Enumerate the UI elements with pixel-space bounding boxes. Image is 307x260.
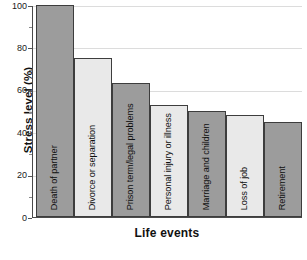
plot-area: Death of partnerDivorce or separationPri… <box>32 6 302 218</box>
bar[interactable]: Divorce or separation <box>74 58 112 217</box>
bar-category-label: Divorce or separation <box>88 125 97 210</box>
bar[interactable]: Loss of job <box>226 115 264 217</box>
bar[interactable]: Death of partner <box>36 5 74 217</box>
bar-slot: Personal injury or illness <box>150 6 188 217</box>
bar-category-label: Personal injury or illness <box>164 113 173 210</box>
bar-slot: Loss of job <box>226 6 264 217</box>
bar[interactable]: Prison term/legal problems <box>112 83 150 217</box>
y-axis-tick-label: 20 <box>0 171 27 180</box>
bar[interactable]: Retirement <box>264 122 302 217</box>
y-axis-tick-label: 40 <box>0 129 27 138</box>
y-axis-tick-label: 80 <box>0 44 27 53</box>
bar-slot: Death of partner <box>36 6 74 217</box>
y-axis-tick-labels: 020406080100 <box>0 0 27 230</box>
y-axis-tick-mark <box>28 218 32 219</box>
bar-slot: Divorce or separation <box>74 6 112 217</box>
bar-category-label: Marriage and children <box>202 123 211 210</box>
x-axis-title: Life events <box>32 226 302 240</box>
y-axis-tick-label: 100 <box>0 2 27 11</box>
bar-slot: Prison term/legal problems <box>112 6 150 217</box>
bar-category-label: Retirement <box>278 166 287 210</box>
bar[interactable]: Personal injury or illness <box>150 105 188 217</box>
bar[interactable]: Marriage and children <box>188 111 226 217</box>
bar-category-label: Loss of job <box>240 167 249 210</box>
bar-series: Death of partnerDivorce or separationPri… <box>33 6 302 217</box>
bar-slot: Marriage and children <box>188 6 226 217</box>
bar-category-label: Death of partner <box>50 145 59 210</box>
bar-category-label: Prison term/legal problems <box>126 103 135 210</box>
bar-slot: Retirement <box>264 6 302 217</box>
y-axis-tick-label: 0 <box>0 214 27 223</box>
y-axis-tick-label: 60 <box>0 86 27 95</box>
bar-chart-figure: Stress level (%) 020406080100 Death of p… <box>0 0 307 260</box>
